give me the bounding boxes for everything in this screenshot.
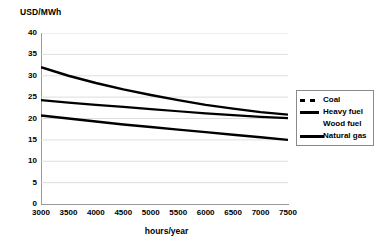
legend-swatch-icon: [299, 118, 323, 130]
y-tick-label: 5: [7, 179, 37, 187]
y-tick-label: 20: [7, 115, 37, 123]
gridlines: [41, 33, 288, 183]
chart-legend: CoalHeavy fuelWood fuelNatural gas: [296, 90, 374, 146]
series-line: [41, 116, 288, 140]
y-tick-label: 40: [7, 29, 37, 37]
legend-swatch-icon: [299, 130, 323, 142]
legend-swatch-icon: [299, 106, 323, 118]
y-tick-label: 15: [7, 136, 37, 144]
legend-label: Heavy fuel: [323, 107, 363, 117]
series-lines: [41, 67, 288, 140]
y-tick-label: 35: [7, 50, 37, 58]
y-tick-label: 10: [7, 157, 37, 165]
legend-item: Coal: [299, 94, 371, 106]
y-tick-label: 30: [7, 72, 37, 80]
legend-label: Coal: [323, 95, 340, 105]
x-axis-title: hours/year: [0, 226, 385, 236]
legend-item: Wood fuel: [299, 118, 371, 130]
y-tick-label: 0: [7, 200, 37, 208]
chart-container: USD/MWh 0510152025303540 300035004000450…: [0, 0, 385, 249]
legend-label: Natural gas: [323, 131, 367, 141]
x-tick-label: 7500: [268, 209, 308, 217]
x-axis-title-text: hours/year: [145, 226, 188, 236]
x-axis-line: [41, 204, 289, 205]
legend-item: Natural gas: [299, 130, 371, 142]
y-axis-title: USD/MWh: [20, 7, 61, 17]
plot-area: [41, 33, 288, 204]
legend-label: Wood fuel: [323, 119, 362, 129]
series-line: [41, 67, 288, 114]
series-line: [41, 100, 288, 118]
legend-item: Heavy fuel: [299, 106, 371, 118]
y-tick-label: 25: [7, 93, 37, 101]
legend-swatch-icon: [299, 94, 323, 106]
plot-svg: [41, 33, 288, 204]
